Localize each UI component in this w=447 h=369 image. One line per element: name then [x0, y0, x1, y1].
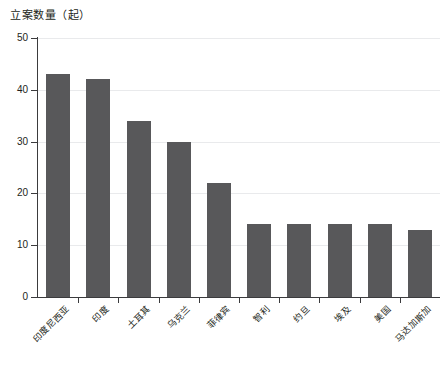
bar[interactable]	[46, 74, 70, 297]
y-tick-mark	[31, 90, 37, 91]
x-tick-mark	[118, 298, 119, 303]
bar[interactable]	[127, 121, 151, 297]
y-axis-line	[37, 37, 38, 298]
x-tick-mark	[239, 298, 240, 303]
y-tick-label: 20	[4, 188, 28, 198]
bar[interactable]	[287, 224, 311, 297]
x-tick-mark	[279, 298, 280, 303]
bar[interactable]	[86, 79, 110, 297]
bar[interactable]	[207, 183, 231, 297]
chart-title: 立案数量（起）	[10, 8, 91, 22]
x-tick-mark	[78, 298, 79, 303]
plot-area	[38, 38, 440, 297]
x-tick-mark	[360, 298, 361, 303]
y-tick-mark	[31, 297, 37, 298]
y-tick-label: 10	[4, 240, 28, 250]
bar[interactable]	[328, 224, 352, 297]
y-tick-mark	[31, 193, 37, 194]
x-tick-mark	[199, 298, 200, 303]
bar-chart: 立案数量（起） 01020304050 印度尼西亚印度土耳其乌克兰菲律宾智利约旦…	[0, 0, 447, 369]
y-tick-label: 50	[4, 33, 28, 43]
y-tick-label: 40	[4, 85, 28, 95]
x-tick-mark	[319, 298, 320, 303]
x-tick-mark	[159, 298, 160, 303]
y-tick-mark	[31, 245, 37, 246]
bar[interactable]	[167, 142, 191, 297]
y-tick-label: 30	[4, 137, 28, 147]
bar[interactable]	[368, 224, 392, 297]
x-tick-mark	[400, 298, 401, 303]
gridline	[38, 38, 440, 39]
y-tick-mark	[31, 142, 37, 143]
bar[interactable]	[408, 230, 432, 297]
y-tick-mark	[31, 38, 37, 39]
y-tick-label: 0	[4, 292, 28, 302]
bar[interactable]	[247, 224, 271, 297]
